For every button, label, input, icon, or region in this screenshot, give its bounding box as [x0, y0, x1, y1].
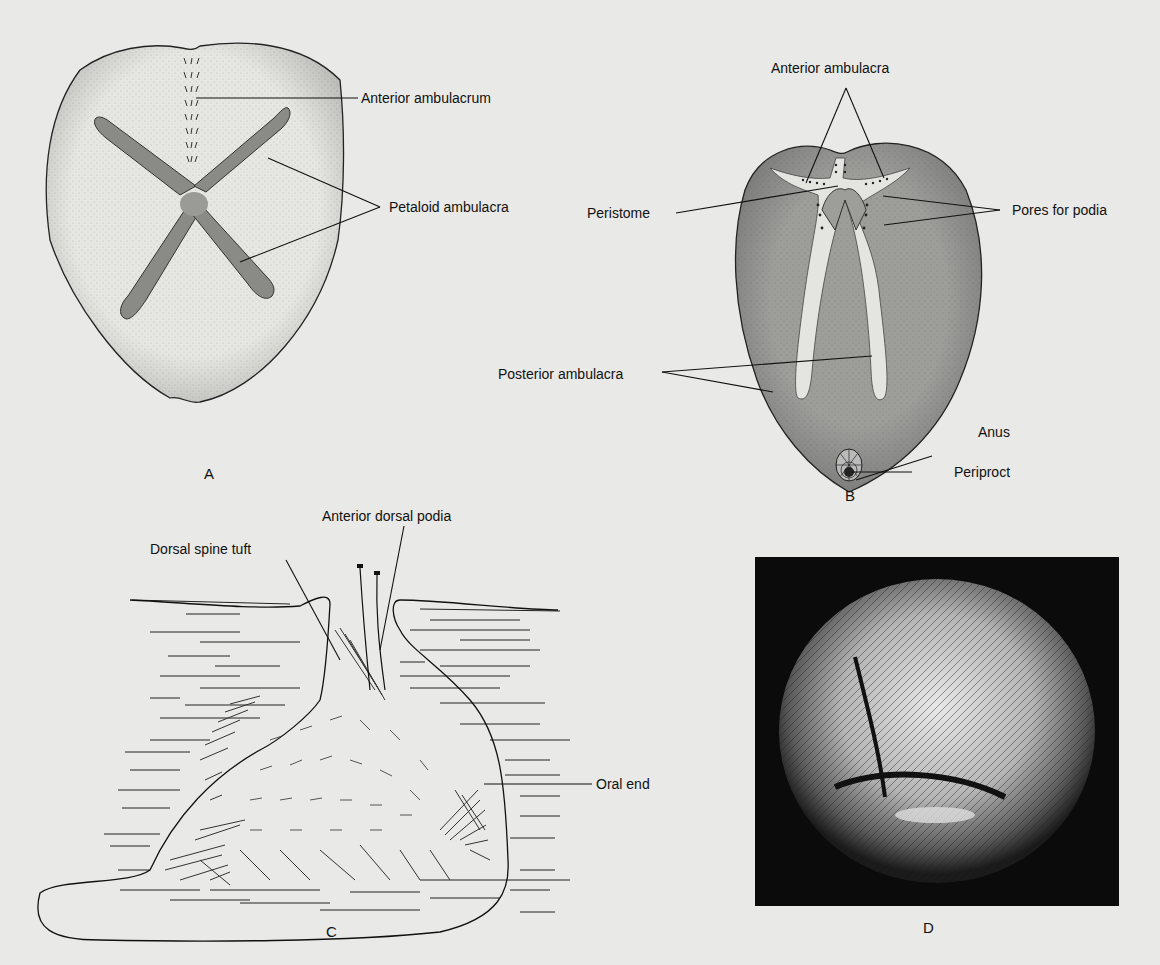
panel-c-drawing: [38, 526, 592, 941]
label-posterior-ambulacra: Posterior ambulacra: [498, 366, 623, 382]
label-pores-for-podia: Pores for podia: [1012, 202, 1107, 218]
urchin-outline: [38, 597, 558, 941]
label-peristome: Peristome: [587, 205, 650, 221]
panel-a-drawing: [46, 43, 380, 402]
panel-letter-b: B: [845, 488, 855, 504]
panel-b-drawing: [662, 88, 1000, 492]
urchin-photo-image: [755, 557, 1119, 906]
label-dorsal-spine-tuft: Dorsal spine tuft: [150, 541, 251, 557]
label-petaloid-ambulacra: Petaloid ambulacra: [389, 199, 509, 215]
label-anterior-ambulacra: Anterior ambulacra: [771, 60, 889, 76]
panel-letter-d: D: [923, 920, 934, 936]
label-anus: Anus: [978, 424, 1010, 440]
panel-letter-c: C: [326, 924, 337, 940]
panel-letter-a: A: [204, 466, 214, 482]
panel-d-photo: [755, 557, 1119, 906]
label-oral-end: Oral end: [596, 776, 650, 792]
label-anterior-ambulacrum: Anterior ambulacrum: [361, 90, 491, 106]
label-anterior-dorsal-podia: Anterior dorsal podia: [322, 508, 451, 524]
label-periproct: Periproct: [954, 464, 1010, 480]
